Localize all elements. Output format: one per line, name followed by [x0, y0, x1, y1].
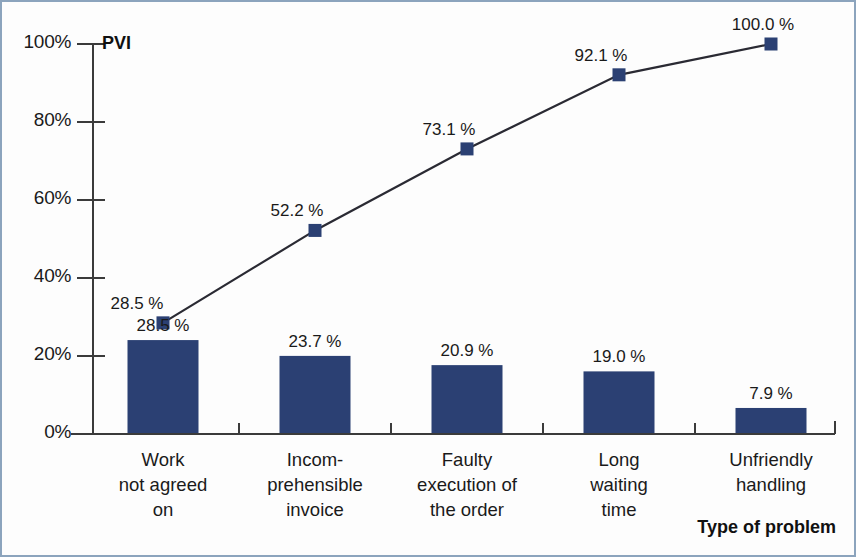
- y-axis-caption: PVI: [102, 33, 131, 54]
- cumulative-value-label: 100.0 %: [693, 15, 833, 35]
- cumulative-marker: [461, 142, 474, 155]
- category-label: Unfriendlyhandling: [676, 447, 856, 497]
- cumulative-value-label: 73.1 %: [379, 120, 519, 140]
- y-axis-tick-label: 100%: [2, 31, 77, 53]
- cumulative-value-label: 28.5 %: [67, 294, 207, 314]
- category-label-line: time: [524, 497, 714, 522]
- bar-value-label: 23.7 %: [245, 332, 385, 352]
- y-axis-tick-label: 80%: [2, 109, 77, 131]
- cumulative-line-group: [163, 44, 771, 323]
- category-label-line: Unfriendly: [676, 447, 856, 472]
- bar: [280, 356, 351, 434]
- cumulative-value-label: 92.1 %: [531, 46, 671, 66]
- x-axis-caption: Type of problem: [697, 517, 836, 538]
- cumulative-marker: [309, 224, 322, 237]
- cumulative-line: [163, 44, 771, 323]
- cumulative-marker: [613, 68, 626, 81]
- bar: [736, 408, 807, 434]
- bar: [128, 340, 199, 434]
- bar: [432, 365, 503, 434]
- cumulative-value-label: 52.2 %: [227, 201, 367, 221]
- y-axis-tick-label: 20%: [2, 343, 77, 365]
- bar-value-label: 20.9 %: [397, 341, 537, 361]
- pareto-chart-figure: 0%20%40%60%80%100% PVI 28.5 %23.7 %20.9 …: [0, 0, 856, 557]
- bar: [584, 371, 655, 434]
- cumulative-markers-group: [157, 38, 778, 330]
- y-axis-tick-label: 60%: [2, 187, 77, 209]
- bar-value-label: 28.5 %: [93, 316, 233, 336]
- y-axis-tick-label: 40%: [2, 265, 77, 287]
- y-axis-tick-label: 0%: [2, 421, 77, 443]
- cumulative-marker: [765, 38, 778, 51]
- bar-value-label: 19.0 %: [549, 347, 689, 367]
- category-label-line: handling: [676, 472, 856, 497]
- bar-value-label: 7.9 %: [701, 384, 841, 404]
